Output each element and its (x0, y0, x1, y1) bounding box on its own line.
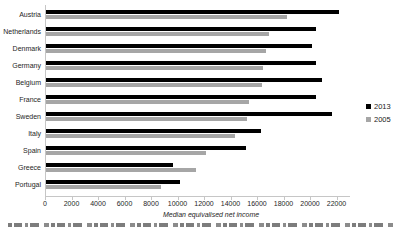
x-axis-tick-label: 0 (43, 200, 47, 207)
bar-2013 (46, 61, 316, 66)
category-label: Italy (0, 128, 41, 139)
bar-2005 (46, 117, 247, 122)
bar-2005 (46, 134, 235, 139)
category-label: Netherlands (0, 26, 41, 37)
x-axis-tick-label: 8000 (143, 200, 159, 207)
x-axis-tick-label: 12000 (194, 200, 213, 207)
category-label: Austria (0, 9, 41, 20)
x-axis-tick-label: 6000 (117, 200, 133, 207)
income-bar-chart: AustriaNetherlandsDenmarkGermanyBelgiumF… (0, 0, 402, 229)
legend-swatch-2013-icon (366, 104, 371, 109)
bar-2005 (46, 32, 269, 37)
legend-item-2013: 2013 (366, 102, 391, 111)
bar-2013 (46, 180, 180, 185)
legend-swatch-2005-icon (366, 117, 371, 122)
legend-item-2005: 2005 (366, 115, 391, 124)
category-label: Sweden (0, 111, 41, 122)
cropped-caption-text (8, 223, 394, 227)
bar-2013 (46, 163, 173, 168)
bar-2013 (46, 129, 261, 134)
bar-2013 (46, 146, 246, 151)
category-label: Spain (0, 145, 41, 156)
legend-label-2013: 2013 (374, 102, 391, 111)
bar-2013 (46, 10, 339, 15)
bar-2005 (46, 83, 262, 88)
x-axis-tick-label: 18000 (274, 200, 293, 207)
bar-2005 (46, 100, 249, 105)
category-label: Belgium (0, 77, 41, 88)
bar-2005 (46, 66, 263, 71)
category-label: Denmark (0, 43, 41, 54)
x-axis-tick-label: 14000 (221, 200, 240, 207)
bar-2005 (46, 168, 196, 173)
x-axis-title: Median equivalised net income (163, 211, 259, 218)
legend: 2013 2005 (366, 102, 391, 128)
bar-2005 (46, 151, 206, 156)
category-label: Portugal (0, 179, 41, 190)
x-axis-tick-label: 2000 (64, 200, 80, 207)
x-axis-tick-label: 20000 (300, 200, 319, 207)
x-axis-tick-label: 10000 (168, 200, 187, 207)
legend-label-2005: 2005 (374, 115, 391, 124)
category-label: Germany (0, 60, 41, 71)
bar-2013 (46, 44, 312, 49)
x-axis-tick-label: 16000 (247, 200, 266, 207)
x-axis-line (45, 196, 350, 197)
x-axis-tick-label: 22000 (327, 200, 346, 207)
bar-2013 (46, 112, 332, 117)
bar-2005 (46, 49, 266, 54)
bar-2005 (46, 185, 161, 190)
bar-2005 (46, 15, 287, 20)
bar-2013 (46, 78, 322, 83)
bar-2013 (46, 27, 316, 32)
category-label: Greece (0, 162, 41, 173)
bar-2013 (46, 95, 316, 100)
x-axis-tick-label: 4000 (90, 200, 106, 207)
category-label: France (0, 94, 41, 105)
